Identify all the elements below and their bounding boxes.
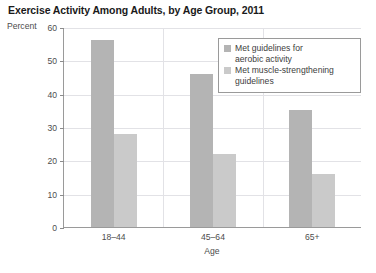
x-tick-label: 18–44 bbox=[64, 232, 163, 242]
y-tick-label: 40 bbox=[47, 90, 57, 100]
legend-swatch-icon bbox=[224, 67, 231, 74]
x-tick-label: 45–64 bbox=[163, 232, 262, 242]
y-tick-label: 30 bbox=[47, 123, 57, 133]
chart-title: Exercise Activity Among Adults, by Age G… bbox=[8, 4, 264, 16]
y-tick-label: 10 bbox=[47, 190, 57, 200]
legend-label-line: Met muscle-strengthening bbox=[235, 65, 334, 75]
y-tick-label: 60 bbox=[47, 23, 57, 33]
y-tick-label: 0 bbox=[52, 223, 57, 233]
legend-label-line: aerobic activity bbox=[235, 54, 292, 64]
y-tick-label: 50 bbox=[47, 56, 57, 66]
y-axis-unit-label: Percent bbox=[7, 21, 37, 31]
legend-item-label: Met guidelines for aerobic activity bbox=[235, 43, 303, 64]
legend-label-line: Met guidelines for bbox=[235, 43, 303, 53]
y-tick-mark bbox=[60, 228, 64, 229]
legend-item[interactable]: Met guidelines for aerobic activity bbox=[224, 43, 355, 64]
legend-item-label: Met muscle-strengthening guidelines bbox=[235, 65, 334, 86]
legend-item[interactable]: Met muscle-strengthening guidelines bbox=[224, 65, 355, 86]
y-tick-label: 20 bbox=[47, 156, 57, 166]
chart-legend: Met guidelines for aerobic activity Met … bbox=[218, 38, 361, 93]
x-axis-title: Age bbox=[63, 246, 361, 256]
chart-container: Exercise Activity Among Adults, by Age G… bbox=[0, 0, 376, 273]
x-tick-label: 65+ bbox=[263, 232, 362, 242]
legend-swatch-icon bbox=[224, 45, 231, 52]
x-tick-slot: 18–44 bbox=[64, 28, 163, 227]
legend-label-line: guidelines bbox=[235, 76, 274, 86]
